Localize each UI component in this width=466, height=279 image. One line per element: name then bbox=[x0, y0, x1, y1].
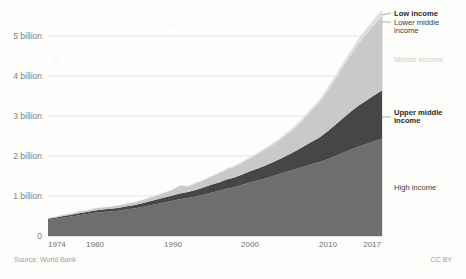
footer: Source: World Bank CC BY bbox=[14, 256, 452, 263]
area-bands bbox=[48, 10, 382, 236]
license-credit[interactable]: CC BY bbox=[431, 256, 453, 263]
x-tick-1974: 1974 bbox=[48, 240, 66, 249]
legend-labels: Low income Lower middle income Middle in… bbox=[394, 9, 443, 192]
y-tick-0: 0 bbox=[37, 231, 42, 241]
x-tick-2010: 2010 bbox=[319, 240, 337, 249]
x-tick-2017: 2017 bbox=[363, 240, 381, 249]
stacked-area-chart: 5 billion 4 billion 3 billion 2 billion … bbox=[0, 0, 466, 279]
x-axis-labels: 1974 1980 1990 2000 2010 2017 bbox=[48, 240, 382, 249]
legend-label-low-income[interactable]: Low income bbox=[394, 9, 438, 18]
x-tick-2000: 2000 bbox=[241, 240, 259, 249]
chart-page: 5 billion 4 billion 3 billion 2 billion … bbox=[0, 0, 466, 279]
y-tick-2b: 2 billion bbox=[13, 151, 42, 161]
y-tick-4b: 4 billion bbox=[13, 71, 42, 81]
y-tick-5b: 5 billion bbox=[13, 31, 42, 41]
y-axis-labels: 5 billion 4 billion 3 billion 2 billion … bbox=[13, 31, 42, 241]
legend-label-upper-middle-income-line2[interactable]: income bbox=[394, 116, 421, 125]
legend-label-lower-middle-income-line2[interactable]: income bbox=[394, 26, 418, 35]
legend-label-high-income[interactable]: High income bbox=[394, 183, 436, 192]
legend-label-middle-income[interactable]: Middle income bbox=[394, 55, 443, 64]
source-credit: Source: World Bank bbox=[14, 256, 77, 263]
y-tick-3b: 3 billion bbox=[13, 111, 42, 121]
leader-line-low-income bbox=[382, 13, 391, 15]
x-tick-1980: 1980 bbox=[86, 240, 104, 249]
x-tick-1990: 1990 bbox=[164, 240, 182, 249]
y-tick-1b: 1 billion bbox=[13, 191, 42, 201]
legend-leader-lines bbox=[382, 13, 391, 117]
